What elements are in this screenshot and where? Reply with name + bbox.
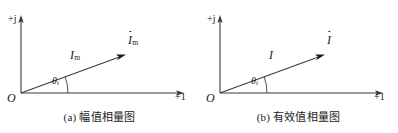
panel-a-caption: (a) 幅值相量图	[0, 108, 199, 124]
phasor-label-base: I	[327, 33, 331, 47]
imaginary-axis-label: +j	[207, 14, 215, 24]
phasor-vector-line	[21, 57, 120, 93]
phasor-diagram-figure: +j +1 O Im Im θi (a) 幅值相量图 +j +1 O I I θ…	[0, 0, 398, 133]
angle-label-subscript: i	[256, 79, 258, 87]
panel-amplitude-phasor: +j +1 O Im Im θi (a) 幅值相量图	[0, 0, 199, 133]
imaginary-axis-label: +j	[8, 14, 16, 24]
phasor-overdot-icon	[129, 31, 131, 33]
phasor-vector-line	[220, 57, 319, 93]
phasor-overdot-icon	[328, 31, 330, 33]
magnitude-label: I	[269, 49, 273, 62]
phasor-label-base: I	[128, 33, 132, 47]
panel-b-caption: (b) 有效值相量图	[199, 108, 398, 124]
panel-a-axes-and-vector	[0, 0, 199, 110]
origin-label: O	[206, 92, 215, 104]
phasor-label-dotted-base: I	[327, 34, 331, 46]
real-axis-label: +1	[175, 92, 186, 102]
angle-label-subscript: i	[57, 79, 59, 87]
magnitude-label-subscript: m	[74, 53, 80, 62]
angle-arc	[65, 77, 68, 93]
phasor-label: I	[327, 34, 331, 47]
origin-label: O	[7, 92, 16, 104]
magnitude-label-base: I	[269, 48, 273, 62]
angle-label: θi	[251, 76, 258, 87]
angle-arc	[264, 77, 267, 93]
angle-label: θi	[52, 76, 59, 87]
panel-b-axes-and-vector	[199, 0, 398, 110]
magnitude-label: Im	[70, 49, 80, 62]
real-axis-label: +1	[374, 92, 385, 102]
phasor-label-subscript: m	[132, 38, 138, 47]
phasor-label: Im	[128, 34, 138, 47]
phasor-label-dotted-base: I	[128, 34, 132, 46]
panel-rms-phasor: +j +1 O I I θi (b) 有效值相量图	[199, 0, 398, 133]
